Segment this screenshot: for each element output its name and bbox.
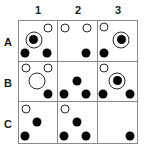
open-circle-token[interactable] [44, 24, 53, 33]
grid-cell-b3[interactable] [98, 62, 137, 103]
filled-circle-token[interactable] [33, 117, 42, 126]
ringed-circle-token[interactable] [113, 31, 130, 48]
column-header-2: 2 [58, 3, 98, 17]
filled-circle-token[interactable] [99, 90, 108, 99]
filled-circle-token[interactable] [21, 131, 30, 140]
grid-cell-a3[interactable] [98, 21, 137, 62]
grid-cell-c1[interactable] [19, 102, 58, 143]
grid-cell-a1[interactable] [19, 21, 58, 62]
grid-cell-c3[interactable] [98, 102, 137, 143]
filled-circle-token[interactable] [21, 48, 30, 57]
column-header-1: 1 [18, 3, 58, 17]
grid-cell-b2[interactable] [58, 62, 97, 103]
filled-circle-token[interactable] [72, 76, 81, 85]
open-circle-token[interactable] [61, 104, 70, 113]
grid-cell-c2[interactable] [58, 102, 97, 143]
open-circle-token[interactable] [99, 23, 108, 32]
grid-cell-a2[interactable] [58, 21, 97, 62]
ringed-circle-token[interactable] [25, 31, 42, 48]
row-header-b: B [0, 76, 16, 90]
open-circle-token[interactable] [44, 64, 53, 73]
filled-circle-token[interactable] [81, 131, 90, 140]
filled-circle-token[interactable] [99, 48, 108, 57]
open-circle-token[interactable] [99, 64, 108, 73]
puzzle-grid [18, 20, 138, 144]
grid-cell-b1[interactable] [19, 62, 58, 103]
filled-circle-token[interactable] [60, 90, 69, 99]
column-header-3: 3 [98, 3, 138, 17]
filled-circle-token[interactable] [72, 117, 81, 126]
row-header-c: C [0, 117, 16, 131]
open-circle-token[interactable] [61, 24, 70, 33]
grid-figure: 1 2 3 A B C [0, 0, 145, 155]
filled-circle-token[interactable] [44, 90, 53, 99]
filled-circle-token[interactable] [81, 90, 90, 99]
open-circle-large-token[interactable] [28, 72, 45, 89]
open-circle-token[interactable] [82, 24, 91, 33]
filled-circle-token[interactable] [125, 90, 134, 99]
filled-circle-token[interactable] [81, 48, 90, 57]
ringed-circle-token[interactable] [109, 72, 126, 89]
open-circle-token[interactable] [21, 104, 30, 113]
filled-circle-token[interactable] [43, 48, 52, 57]
row-header-a: A [0, 35, 16, 49]
open-circle-token[interactable] [21, 64, 30, 73]
filled-circle-token[interactable] [125, 131, 134, 140]
filled-circle-token[interactable] [60, 131, 69, 140]
